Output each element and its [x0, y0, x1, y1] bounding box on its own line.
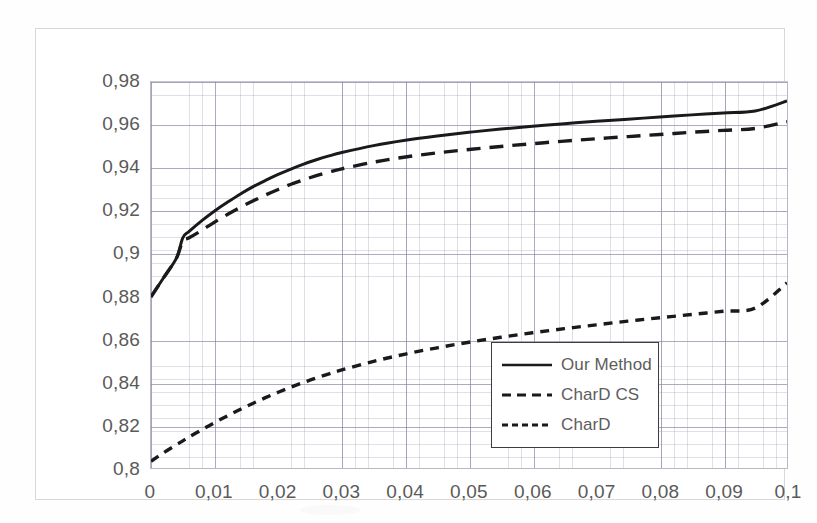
y-axis-tick-label: 0,9 [113, 242, 140, 264]
legend-item[interactable]: CharD [492, 410, 658, 440]
x-axis-tick-label: 0 [145, 481, 156, 503]
x-axis: 00,010,020,030,040,050,060,070,080,090,1 [150, 481, 788, 511]
series-line-chard [151, 283, 787, 461]
x-axis-tick-label: 0,02 [259, 481, 297, 503]
x-axis-tick-label: 0,09 [705, 481, 743, 503]
legend-swatch-dashed-long [501, 389, 553, 401]
legend-label: CharD [561, 415, 611, 435]
x-axis-tick-label: 0,04 [386, 481, 424, 503]
y-axis-tick-label: 0,82 [102, 415, 140, 437]
y-axis-tick-label: 0,96 [102, 113, 140, 135]
x-axis-tick-label: 0,06 [514, 481, 552, 503]
legend-item[interactable]: Our Method [492, 350, 658, 380]
legend-label: CharD CS [561, 385, 639, 405]
legend-item[interactable]: CharD CS [492, 380, 658, 410]
legend-swatch-dashed-short [501, 419, 553, 431]
x-axis-tick-label: 0,1 [774, 481, 801, 503]
plot-area [150, 81, 788, 469]
legend-label: Our Method [561, 355, 652, 375]
chart-container: 0,980,960,940,920,90,880,860,840,820,8 0… [35, 28, 785, 500]
series-line-our-method [151, 101, 787, 297]
y-axis-tick-label: 0,88 [102, 286, 140, 308]
y-axis-tick-label: 0,98 [102, 70, 140, 92]
chart-legend: Our MethodCharD CSCharD [491, 342, 659, 448]
y-axis-tick-label: 0,94 [102, 156, 140, 178]
series-line-chard-cs [151, 122, 787, 297]
y-axis-tick-label: 0,92 [102, 199, 140, 221]
x-axis-tick-label: 0,07 [578, 481, 616, 503]
x-axis-tick-label: 0,01 [195, 481, 233, 503]
y-axis: 0,980,960,940,920,90,880,860,840,820,8 [74, 81, 140, 469]
x-axis-tick-label: 0,08 [642, 481, 680, 503]
y-axis-tick-label: 0,8 [113, 458, 140, 480]
x-axis-tick-label: 0,05 [450, 481, 488, 503]
legend-swatch-solid [501, 359, 553, 371]
y-axis-tick-label: 0,84 [102, 372, 140, 394]
series-layer [151, 82, 787, 469]
y-axis-tick-label: 0,86 [102, 329, 140, 351]
x-axis-tick-label: 0,03 [323, 481, 361, 503]
